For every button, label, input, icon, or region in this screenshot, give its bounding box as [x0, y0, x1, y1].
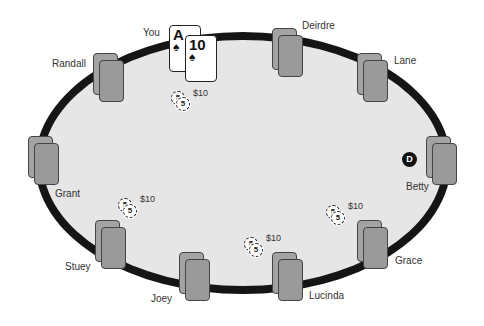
- chip-icon: 5: [176, 97, 190, 111]
- card-back-icon: [363, 227, 388, 269]
- spade-icon: ♠: [173, 41, 179, 53]
- chip-stack-grace: 5 5: [326, 205, 350, 229]
- seat-lane[interactable]: [357, 53, 391, 103]
- card-back-icon: [432, 143, 457, 185]
- player-name-lane: Lane: [394, 55, 416, 66]
- player-name-deirdre: Deirdre: [302, 20, 335, 31]
- seat-stuey[interactable]: [95, 220, 129, 270]
- card-back-icon: [34, 143, 59, 185]
- bet-amount-center: $10: [266, 233, 281, 243]
- dealer-button: D: [402, 152, 417, 167]
- card-back-icon: [99, 60, 124, 102]
- player-name-joey: Joey: [151, 293, 172, 304]
- chip-stack-grant: 5 5: [118, 198, 142, 222]
- seat-betty[interactable]: [426, 136, 460, 186]
- chip-stack-you: 5 5: [171, 91, 195, 115]
- card-back-icon: [363, 60, 388, 102]
- seat-lucinda[interactable]: [272, 252, 306, 302]
- seat-grace[interactable]: [357, 220, 391, 270]
- bet-amount-you: $10: [193, 88, 208, 98]
- bet-amount-grace: $10: [348, 201, 363, 211]
- seat-deirdre[interactable]: [272, 28, 306, 78]
- seat-randall[interactable]: [93, 53, 127, 103]
- bet-amount-grant: $10: [140, 194, 155, 204]
- player-name-grant: Grant: [55, 188, 80, 199]
- chip-icon: 5: [331, 211, 345, 225]
- player-name-grace: Grace: [395, 255, 422, 266]
- player-name-randall: Randall: [52, 58, 86, 69]
- card-back-icon: [278, 35, 303, 77]
- card-back-icon: [185, 259, 210, 301]
- seat-joey[interactable]: [179, 252, 213, 302]
- player-name-lucinda: Lucinda: [309, 290, 344, 301]
- seat-grant[interactable]: [28, 136, 62, 186]
- player-name-stuey: Stuey: [65, 261, 91, 272]
- card-back-icon: [278, 259, 303, 301]
- hole-card-2[interactable]: 10 ♠: [185, 35, 217, 82]
- chip-icon: 5: [123, 204, 137, 218]
- chip-stack-center: 5 5: [244, 237, 268, 261]
- card-back-icon: [101, 227, 126, 269]
- player-name-you: You: [143, 27, 160, 38]
- chip-icon: 5: [249, 243, 263, 257]
- spade-icon: ♠: [189, 51, 195, 63]
- player-name-betty: Betty: [406, 181, 429, 192]
